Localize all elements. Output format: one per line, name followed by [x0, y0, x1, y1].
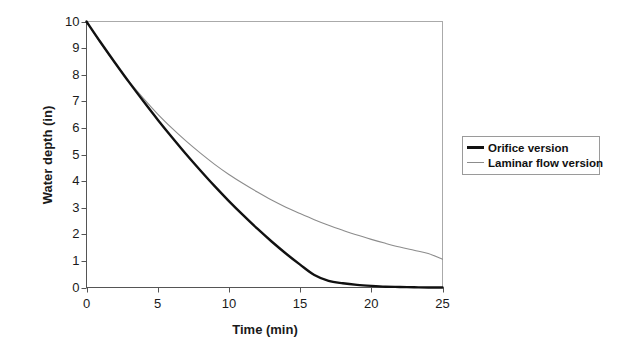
- y-axis-tick-label: 10: [46, 15, 80, 28]
- chart-figure: 109876543210 0510152025 Water depth (in)…: [0, 0, 627, 351]
- y-axis-tick-label: 0: [46, 281, 80, 294]
- chart-legend: Orifice version Laminar flow version: [462, 136, 600, 175]
- x-axis-tick-label: 0: [67, 297, 107, 310]
- x-axis-tick-label: 20: [351, 297, 391, 310]
- x-axis-title: Time (min): [86, 322, 444, 337]
- x-axis-tick-label: 15: [280, 297, 320, 310]
- legend-label: Laminar flow version: [488, 157, 603, 169]
- legend-label: Orifice version: [488, 142, 569, 154]
- x-axis-tick-label: 5: [138, 297, 178, 310]
- series-line-orifice-version: [87, 22, 443, 288]
- y-axis-tick-label: 1: [46, 254, 80, 267]
- x-axis-tick-label: 25: [423, 297, 463, 310]
- legend-item-orifice-version: Orifice version: [467, 140, 595, 155]
- y-axis-tick-label: 9: [46, 41, 80, 54]
- x-axis-tick-marks: [88, 288, 444, 293]
- y-axis-title: Water depth (in): [40, 55, 55, 255]
- y-axis-tick-marks: [82, 23, 87, 289]
- series-line-laminar-flow-version: [87, 22, 443, 260]
- legend-item-laminar-flow-version: Laminar flow version: [467, 155, 595, 170]
- x-axis-tick-label: 10: [209, 297, 249, 310]
- legend-swatch-thick-line-icon: [467, 143, 484, 153]
- legend-swatch-thin-line-icon: [467, 158, 484, 168]
